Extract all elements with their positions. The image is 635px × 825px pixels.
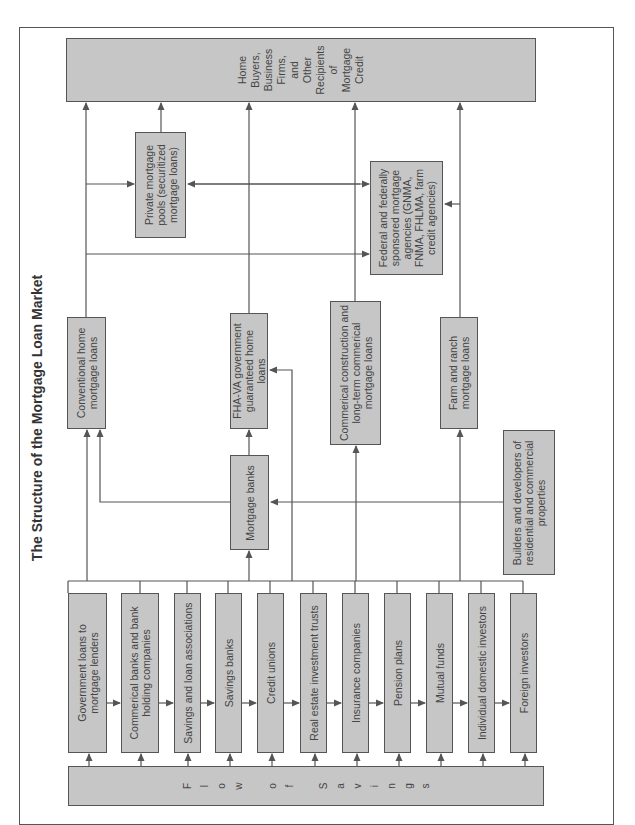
institution-label: Real estate investment trusts [308,605,320,740]
conventional-loans-label: Conventional home mortgage loans [75,323,99,423]
farm-ranch-loans-box: Farm and ranch mortgage loans [440,317,478,429]
institution-government-loans: Government loans to mortgage lenders [68,593,107,753]
institution-mutual-funds: Mutual funds [426,593,453,753]
institution-label: Insurance companies [350,623,362,723]
institution-label: Pension plans [392,640,404,706]
fha-va-loans-box: FHA-VA government guaranteed home loans [230,313,268,429]
fha-va-loans-label: FHA-VA government guaranteed home loans [231,316,267,426]
conventional-loans-box: Conventional home mortgage loans [67,317,106,429]
recipients-box: Home Buyers, Business Firms, and Other R… [66,38,536,102]
institution-reits: Real estate investment trusts [300,593,327,753]
commercial-loans-label: Commerical construction and long-term co… [338,305,374,441]
federal-agencies-box: Federal and federally sponsored mortgage… [370,161,443,275]
institution-label: Foreign investors [518,633,530,714]
institution-insurance: Insurance companies [342,593,369,753]
private-mortgage-pools-box: Private mortgage pools (securitized mort… [135,132,186,238]
institution-label: Individual domestic investors [476,606,488,740]
commercial-loans-box: Commerical construction and long-term co… [330,301,381,445]
institution-label: Mutual funds [434,643,446,703]
institution-label: Savings banks [223,639,235,707]
institution-foreign-investors: Foreign investors [510,593,537,753]
institution-credit-unions: Credit unions [257,593,284,753]
institution-individual-investors: Individual domestic investors [468,593,495,753]
flow-of-savings-label: F l o w o f S a v i n g s [183,781,429,792]
institution-label: Savings and loan associations [182,602,194,743]
private-pools-label: Private mortgage pools (securitized mort… [143,135,179,235]
institution-label: Commerical banks and bank holding compan… [128,598,152,748]
farm-ranch-loans-label: Farm and ranch mortgage loans [447,328,471,418]
institution-label: Credit unions [265,642,277,704]
institution-commercial-banks: Commerical banks and bank holding compan… [121,593,159,753]
recipients-label: Home Buyers, Business Firms, and Other R… [236,45,366,94]
federal-agencies-label: Federal and federally sponsored mortgage… [377,164,437,272]
builders-developers-box: Builders and developers of residential a… [503,430,555,575]
institution-savings-banks: Savings banks [215,593,242,753]
mortgage-banks-box: Mortgage banks [230,455,269,550]
mortgage-banks-label: Mortgage banks [244,465,256,540]
institution-savings-loan: Savings and loan associations [174,593,201,753]
institution-label: Government loans to mortgage lenders [76,603,100,743]
flow-of-savings-box: F l o w o f S a v i n g s [68,766,544,806]
institution-pension-plans: Pension plans [384,593,411,753]
builders-developers-label: Builders and developers of residential a… [511,435,547,571]
